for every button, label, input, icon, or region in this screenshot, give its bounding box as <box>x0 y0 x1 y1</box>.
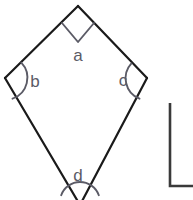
angle-label-a: a <box>73 46 83 65</box>
geometry-figure: a b c d <box>0 0 193 200</box>
figure-background <box>0 0 193 200</box>
angle-label-b: b <box>30 72 39 91</box>
angle-label-d: d <box>73 166 82 185</box>
angle-label-c: c <box>119 71 128 90</box>
